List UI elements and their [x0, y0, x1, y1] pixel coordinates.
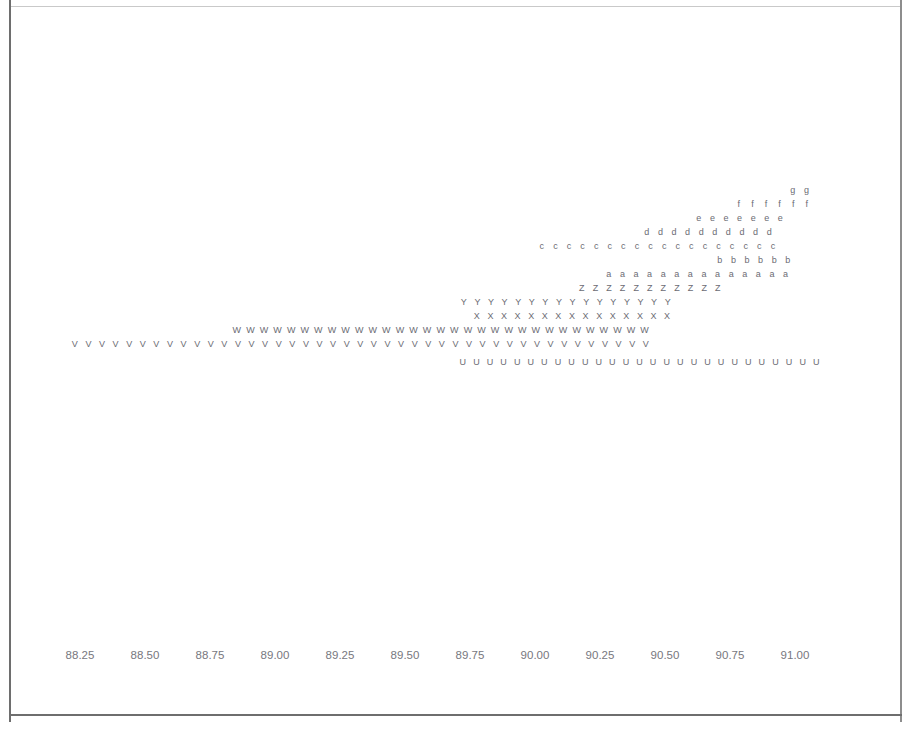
plot-area: ggffffffeeeeeeeddddddddddccccccccccccccc… [10, 6, 901, 715]
x-tick-label: 88.50 [131, 649, 160, 661]
x-tick-label: 90.00 [521, 649, 550, 661]
x-tick-label: 90.75 [716, 649, 745, 661]
x-tick-label: 91.00 [781, 649, 810, 661]
x-tick-label: 89.25 [326, 649, 355, 661]
x-tick-label: 89.50 [391, 649, 420, 661]
x-tick-label: 88.75 [196, 649, 225, 661]
x-tick-label: 89.00 [261, 649, 290, 661]
page-canvas: ggffffffeeeeeeeddddddddddccccccccccccccc… [0, 0, 910, 734]
x-axis-tick-labels: 88.2588.5088.7589.0089.2589.5089.7590.00… [10, 6, 901, 715]
x-tick-label: 90.25 [586, 649, 615, 661]
x-tick-label: 89.75 [456, 649, 485, 661]
x-tick-label: 90.50 [651, 649, 680, 661]
x-tick-label: 88.25 [66, 649, 95, 661]
